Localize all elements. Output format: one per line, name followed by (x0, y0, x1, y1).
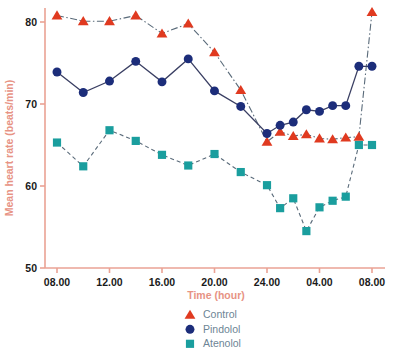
data-point-square (210, 150, 218, 158)
data-point-triangle (353, 132, 364, 141)
data-point-circle (210, 86, 219, 95)
data-point-square (105, 126, 113, 134)
data-point-square (329, 197, 337, 205)
y-tick-label: 50 (25, 262, 37, 274)
data-point-circle (158, 77, 167, 86)
data-point-square (53, 138, 61, 146)
data-point-square (186, 340, 194, 348)
x-tick-label: 04.00 (306, 276, 332, 288)
data-point-square (79, 162, 87, 170)
x-tick-label: 12.00 (96, 276, 122, 288)
data-point-square (355, 141, 363, 149)
series-control (52, 7, 378, 146)
data-point-circle (368, 62, 377, 71)
data-point-circle (302, 105, 311, 114)
data-point-circle (315, 107, 324, 116)
legend-label: Control (203, 308, 237, 320)
data-point-square (184, 161, 192, 169)
data-point-triangle (367, 7, 378, 16)
series-line (57, 12, 372, 142)
data-point-circle (53, 68, 62, 77)
x-tick-label: 24.00 (254, 276, 280, 288)
series-line (57, 130, 372, 231)
data-point-square (132, 137, 140, 145)
legend-label: Pindolol (203, 323, 240, 335)
y-tick-label: 80 (25, 16, 37, 28)
x-axis-ticks: 08.0012.0016.0020.0024.0004.0008.00 (44, 268, 385, 288)
data-point-circle (79, 88, 88, 97)
data-point-triangle (130, 10, 141, 19)
data-point-square (368, 141, 376, 149)
chart-legend: ControlPindololAtenolol (185, 308, 241, 349)
y-tick-label: 70 (25, 98, 37, 110)
x-tick-label: 16.00 (149, 276, 175, 288)
data-point-triangle (185, 310, 196, 319)
data-point-circle (105, 77, 114, 86)
data-point-triangle (183, 19, 194, 28)
data-point-circle (131, 57, 140, 66)
data-point-triangle (209, 47, 220, 56)
data-point-square (263, 181, 271, 189)
legend-item-atenolol: Atenolol (186, 337, 241, 349)
data-point-circle (184, 54, 193, 63)
data-point-triangle (52, 10, 63, 19)
series-atenolol (53, 126, 376, 235)
data-point-circle (263, 129, 272, 138)
series-pindolol (53, 54, 377, 138)
y-axis-title: Mean heart rate (beats/min) (3, 80, 15, 217)
series-line (57, 59, 372, 134)
data-point-circle (341, 101, 350, 110)
data-point-triangle (314, 133, 325, 142)
data-point-square (302, 227, 310, 235)
legend-label: Atenolol (203, 337, 241, 349)
data-point-square (158, 151, 166, 159)
legend-item-control: Control (185, 308, 237, 320)
data-series (52, 7, 378, 235)
legend-item-pindolol: Pindolol (186, 323, 241, 335)
data-point-circle (186, 325, 195, 334)
data-point-square (315, 203, 323, 211)
data-point-triangle (301, 129, 312, 138)
data-point-circle (276, 121, 285, 130)
data-point-circle (354, 62, 363, 71)
data-point-triangle (235, 85, 246, 94)
data-point-circle (328, 101, 337, 110)
heart-rate-line-chart: 50607080 08.0012.0016.0020.0024.0004.000… (0, 0, 398, 362)
data-point-square (237, 168, 245, 176)
x-tick-label: 20.00 (201, 276, 227, 288)
data-point-circle (289, 118, 298, 127)
y-axis-ticks: 50607080 (25, 16, 45, 274)
data-point-circle (236, 102, 245, 111)
x-axis-title: Time (hour) (187, 289, 245, 301)
x-tick-label: 08.00 (44, 276, 70, 288)
data-point-triangle (157, 28, 168, 37)
data-point-square (276, 204, 284, 212)
chart-figure: 50607080 08.0012.0016.0020.0024.0004.000… (0, 0, 398, 362)
data-point-square (342, 193, 350, 201)
data-point-square (289, 194, 297, 202)
x-tick-label: 08.00 (359, 276, 385, 288)
y-tick-label: 60 (25, 180, 37, 192)
